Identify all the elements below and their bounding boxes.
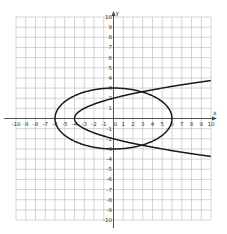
x-tick-label: 5 [161, 121, 165, 127]
x-tick-label: -8 [33, 121, 39, 127]
x-tick-label: 10 [208, 121, 215, 127]
y-tick-label: 1 [109, 105, 113, 111]
x-tick-label: 0 [114, 121, 118, 127]
y-axis-label: y [116, 9, 120, 17]
x-tick-label: 1 [122, 121, 126, 127]
y-tick-label: -10 [103, 217, 112, 223]
x-axis-label: x [213, 109, 217, 116]
y-tick-label: 5 [109, 65, 113, 71]
y-tick-label: -9 [107, 207, 113, 213]
y-tick-label: 4 [109, 75, 113, 81]
y-tick-label: 7 [109, 44, 113, 50]
x-tick-label: 4 [151, 121, 155, 127]
x-tick-label: -7 [43, 121, 49, 127]
x-tick-label: 3 [141, 121, 145, 127]
x-tick-label: 2 [131, 121, 135, 127]
x-tick-label: 8 [190, 121, 194, 127]
x-tick-label: -10 [12, 121, 21, 127]
x-tick-label: 7 [180, 121, 184, 127]
y-tick-label: -1 [107, 126, 112, 132]
y-tick-label: -4 [107, 156, 113, 162]
y-tick-label: -8 [107, 197, 113, 203]
x-tick-label: -3 [82, 121, 88, 127]
x-tick-label: 9 [200, 121, 204, 127]
x-tick-label: -9 [23, 121, 29, 127]
y-tick-label: 10 [105, 14, 112, 20]
coordinate-plane: -10-9-8-7-6-5-4-3-2-1012345678910-10-9-8… [0, 0, 227, 234]
y-tick-label: 6 [109, 55, 113, 61]
x-tick-label: -2 [91, 121, 96, 127]
y-tick-label: -6 [107, 176, 113, 182]
y-tick-label: 8 [109, 34, 113, 40]
y-tick-label: -7 [107, 187, 113, 193]
y-tick-label: -5 [107, 166, 113, 172]
y-tick-label: 9 [109, 24, 113, 30]
x-tick-label: -5 [62, 121, 68, 127]
